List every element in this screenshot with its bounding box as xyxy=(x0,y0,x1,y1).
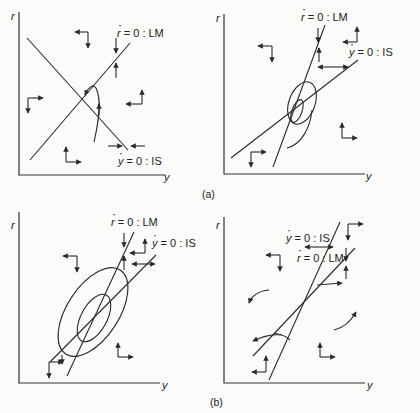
direction-arrows-bottom-right xyxy=(320,343,335,357)
axis-label-r: r xyxy=(11,220,15,231)
lm-label: r = 0 : LM xyxy=(297,253,344,264)
direction-arrows-bottom xyxy=(66,147,81,162)
is-label: y = 0 : IS xyxy=(349,47,393,58)
direction-arrows-left xyxy=(28,98,43,113)
is-curve xyxy=(27,38,128,150)
lm-label: r = 0 : LM xyxy=(111,217,158,228)
is-label: y = 0 : IS xyxy=(286,233,330,244)
is-curve xyxy=(50,255,156,362)
is-label: y = 0 : IS xyxy=(118,156,162,167)
axis-label-r: r xyxy=(216,220,220,231)
panel-label-b: (b) xyxy=(210,397,223,408)
panel-a-right xyxy=(224,14,365,174)
direction-arrows-top-right xyxy=(130,239,145,253)
axis-label-y: y xyxy=(367,380,373,391)
direction-arrows-top-right xyxy=(348,224,363,240)
trajectory-ellipse-inner xyxy=(288,98,306,124)
lm-curve xyxy=(30,43,130,160)
axis-label-y: y xyxy=(366,171,372,182)
direction-arrows-bottom-left xyxy=(251,152,266,167)
lm-curve xyxy=(253,248,355,356)
trajectory-spiral xyxy=(85,86,99,142)
direction-arrows-top xyxy=(75,32,88,48)
axis-label-y: y xyxy=(164,172,170,183)
direction-arrows-bottom-left xyxy=(49,362,63,378)
lm-label: r = 0 : LM xyxy=(301,12,348,23)
direction-arrows-top-left xyxy=(63,256,77,272)
lm-curve xyxy=(273,25,325,167)
lm-label: r = 0 : LM xyxy=(117,28,164,39)
is-label: y = 0 : IS xyxy=(152,238,196,249)
is-lm-phase-diagrams xyxy=(0,0,420,413)
lm-curve xyxy=(67,232,134,376)
axes xyxy=(224,14,365,174)
trajectory-ellipse-outer xyxy=(44,256,142,368)
direction-arrows-bottom-right xyxy=(118,343,133,357)
axis-label-r: r xyxy=(216,13,220,24)
direction-arrows-top-left xyxy=(266,255,280,271)
axis-label-r: r xyxy=(11,11,15,22)
is-curve xyxy=(231,60,358,158)
axis-label-y: y xyxy=(162,380,168,391)
panel-b-left xyxy=(19,212,160,383)
direction-arrows-bottom-right xyxy=(342,123,357,138)
axes xyxy=(19,212,160,383)
direction-arrows-bottom-left xyxy=(252,356,266,372)
direction-arrows-top-left xyxy=(258,46,272,62)
panel-label-a: (a) xyxy=(202,189,215,200)
direction-arrows-right xyxy=(126,90,142,104)
